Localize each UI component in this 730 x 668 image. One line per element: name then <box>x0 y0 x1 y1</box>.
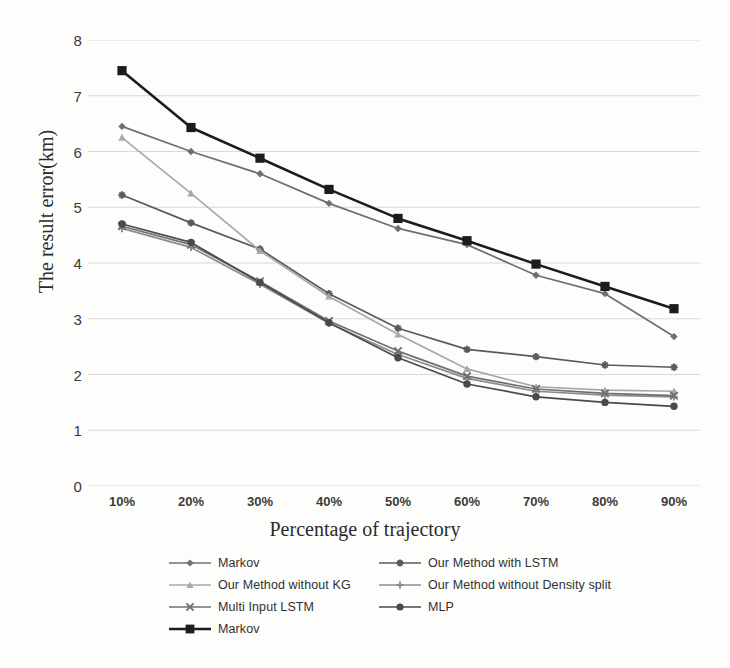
series-line-3 <box>122 228 674 396</box>
data-point-circle <box>396 603 403 610</box>
legend-marker-x-icon <box>168 600 212 614</box>
legend-entry[interactable]: Markov <box>168 552 378 574</box>
legend-entry[interactable]: Our Method with LSTM <box>378 552 648 574</box>
legend-label: Our Method without Density split <box>428 578 611 592</box>
chart-figure: The result error(km) 012345678 10%20%30%… <box>0 0 730 668</box>
data-point-square <box>117 66 126 75</box>
data-point-circle <box>394 354 401 361</box>
legend-row: MarkovOur Method with LSTM <box>168 552 648 574</box>
data-point-asterisk <box>396 559 403 566</box>
data-point-square <box>531 260 540 269</box>
x-tick-label: 20% <box>161 494 221 509</box>
legend-marker-triangle-icon <box>168 578 212 592</box>
legend-entry[interactable]: MLP <box>378 596 648 618</box>
legend-entry[interactable]: Multi Input LSTM <box>168 596 378 618</box>
y-tick-label: 0 <box>56 478 82 495</box>
legend-entry[interactable]: Our Method without Density split <box>378 574 648 596</box>
series-lines <box>88 40 700 486</box>
data-point-triangle <box>394 331 401 338</box>
data-point-plus <box>396 581 403 588</box>
data-point-diamond <box>187 148 194 155</box>
plot-area <box>88 40 700 486</box>
x-tick-label: 50% <box>368 494 428 509</box>
y-axis-tick-labels: 012345678 <box>52 40 82 486</box>
data-point-square <box>186 123 195 132</box>
y-tick-label: 2 <box>56 366 82 383</box>
data-point-circle <box>187 239 194 246</box>
y-tick-label: 1 <box>56 422 82 439</box>
data-point-asterisk <box>601 361 608 368</box>
legend-marker-plus-icon <box>378 578 422 592</box>
data-point-diamond <box>186 559 193 566</box>
legend-entry[interactable]: Markov <box>168 618 378 640</box>
data-point-circle <box>256 279 263 286</box>
legend-marker-asterisk-icon <box>378 556 422 570</box>
chart-legend: MarkovOur Method with LSTMOur Method wit… <box>168 552 648 640</box>
legend-marker-circle-icon <box>378 600 422 614</box>
x-tick-label: 90% <box>644 494 704 509</box>
y-tick-label: 6 <box>56 143 82 160</box>
data-point-circle <box>463 380 470 387</box>
data-point-circle <box>118 220 125 227</box>
x-tick-label: 30% <box>230 494 290 509</box>
data-point-square <box>462 236 471 245</box>
legend-label: Our Method with LSTM <box>428 556 559 570</box>
data-point-diamond <box>532 272 539 279</box>
data-point-square <box>255 154 264 163</box>
legend-label: Markov <box>218 622 260 636</box>
legend-row: Multi Input LSTMMLP <box>168 596 648 618</box>
data-point-circle <box>670 403 677 410</box>
data-point-diamond <box>325 200 332 207</box>
series-line-4 <box>122 226 674 395</box>
x-axis-title: Percentage of trajectory <box>0 518 730 541</box>
y-tick-label: 7 <box>56 87 82 104</box>
series-line-5 <box>122 224 674 406</box>
data-point-square <box>186 625 195 634</box>
data-point-square <box>324 185 333 194</box>
data-point-triangle <box>118 134 125 141</box>
x-tick-label: 10% <box>92 494 152 509</box>
legend-marker-diamond-icon <box>168 556 212 570</box>
data-point-circle <box>325 319 332 326</box>
data-point-diamond <box>394 225 401 232</box>
data-point-square <box>393 214 402 223</box>
x-axis-tick-labels: 10%20%30%40%50%60%70%80%90% <box>88 494 700 514</box>
data-point-square <box>600 282 609 291</box>
y-tick-label: 4 <box>56 255 82 272</box>
legend-label: Our Method without KG <box>218 578 351 592</box>
data-point-circle <box>532 393 539 400</box>
x-tick-label: 40% <box>299 494 359 509</box>
legend-row: Markov <box>168 618 648 640</box>
x-tick-label: 70% <box>506 494 566 509</box>
legend-marker-square-icon <box>168 622 212 636</box>
y-tick-label: 3 <box>56 310 82 327</box>
legend-label: Multi Input LSTM <box>218 600 314 614</box>
x-tick-label: 80% <box>575 494 635 509</box>
data-point-triangle <box>463 365 470 372</box>
series-line-6 <box>122 71 674 309</box>
legend-label: Markov <box>218 556 260 570</box>
y-tick-label: 8 <box>56 32 82 49</box>
data-point-asterisk <box>187 219 194 226</box>
data-point-diamond <box>256 170 263 177</box>
data-point-asterisk <box>118 191 125 198</box>
data-point-diamond <box>118 123 125 130</box>
legend-entry[interactable]: Our Method without KG <box>168 574 378 596</box>
data-point-asterisk <box>532 353 539 360</box>
x-tick-label: 60% <box>437 494 497 509</box>
data-point-asterisk <box>463 346 470 353</box>
data-point-asterisk <box>670 364 677 371</box>
data-point-square <box>669 304 678 313</box>
data-point-circle <box>601 399 608 406</box>
y-tick-label: 5 <box>56 199 82 216</box>
legend-label: MLP <box>428 600 454 614</box>
legend-row: Our Method without KGOur Method without … <box>168 574 648 596</box>
